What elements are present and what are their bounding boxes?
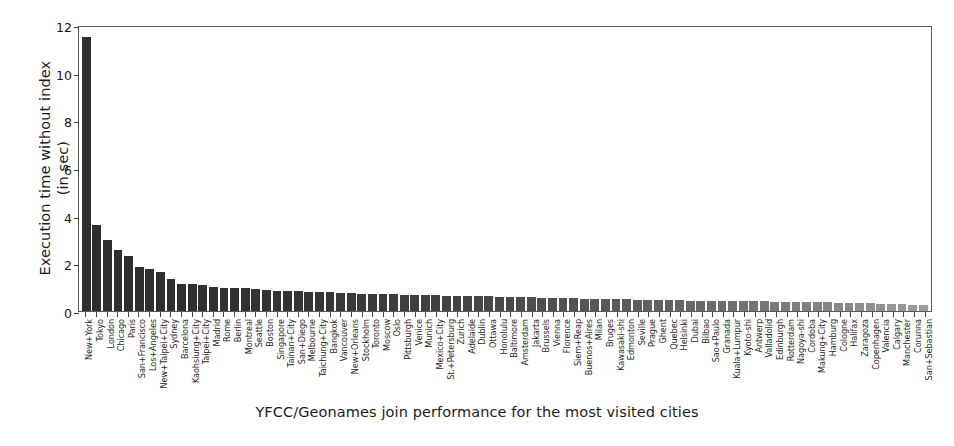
x-axis-tick-mark: [824, 312, 835, 318]
bar: [686, 301, 695, 311]
bar: [431, 295, 440, 311]
bar: [696, 301, 705, 311]
bar: [453, 296, 462, 311]
x-axis-tick-label: Antwerp: [749, 319, 760, 399]
x-axis-tick-label: Bruges: [601, 319, 612, 399]
bar: [516, 297, 525, 311]
x-axis-tick-label: Barcelona: [176, 319, 187, 399]
bar: [781, 302, 790, 311]
x-axis-tick-label: Valladolid: [760, 319, 771, 399]
x-axis-tick-mark: [101, 312, 112, 318]
x-axis-tick-mark: [569, 312, 580, 318]
x-axis-tick-mark: [409, 312, 420, 318]
x-axis-tick-label: Brussels: [537, 319, 548, 399]
x-axis-tick-label: Bangkok: [324, 319, 335, 399]
x-axis-tick-mark: [218, 312, 229, 318]
y-axis-tick-mark: [74, 75, 79, 76]
bar: [347, 293, 356, 311]
x-axis-tick-mark: [813, 312, 824, 318]
bar: [919, 305, 928, 311]
x-axis-tick-label: Halifax: [845, 319, 856, 399]
bar: [823, 302, 832, 311]
x-axis-tick-label: Dublin: [473, 319, 484, 399]
bar: [654, 300, 663, 311]
x-axis-tick-mark: [558, 312, 569, 318]
x-axis-tick-mark: [888, 312, 899, 318]
x-axis-tick-label: Quebec: [664, 319, 675, 399]
x-axis-tick-mark: [452, 312, 463, 318]
y-axis-tick-mark: [74, 218, 79, 219]
x-axis-tick-mark: [866, 312, 877, 318]
bar: [495, 297, 504, 311]
bar: [601, 299, 610, 311]
bar: [580, 299, 589, 311]
bar: [866, 303, 875, 311]
bar: [294, 291, 303, 311]
x-axis-tick-label: Taipei+City: [197, 319, 208, 399]
bar: [622, 299, 631, 311]
bar: [410, 295, 419, 311]
bar: [559, 298, 568, 311]
x-axis-tick-label: New+York: [80, 319, 91, 399]
bar: [421, 295, 430, 311]
bar: [220, 288, 229, 311]
x-axis-tick-mark: [919, 312, 930, 318]
bar: [675, 300, 684, 311]
x-axis-tick-label: San+Diego: [293, 319, 304, 399]
x-axis-tick-mark: [186, 312, 197, 318]
x-axis-tick-label: Manchester: [898, 319, 909, 399]
bar: [633, 300, 642, 311]
x-axis-tick-mark: [282, 312, 293, 318]
x-axis-tick-label: Siem+Reap: [569, 319, 580, 399]
bar: [898, 304, 907, 311]
bar: [230, 288, 239, 311]
x-axis-tick-label: Kuala+Lumpur: [728, 319, 739, 399]
x-axis-tick-mark: [579, 312, 590, 318]
bar: [92, 225, 101, 311]
x-axis-tick-mark: [526, 312, 537, 318]
bar: [802, 302, 811, 311]
x-axis-tick-label: Calgary: [888, 319, 899, 399]
x-axis-tick-mark: [239, 312, 250, 318]
x-axis-tick-label: Edmonton: [622, 319, 633, 399]
bar: [336, 293, 345, 311]
x-axis-tick-label: Tainan+City: [282, 319, 293, 399]
x-axis-tick-mark: [473, 312, 484, 318]
bar: [463, 296, 472, 311]
bar: [156, 272, 165, 311]
x-axis-tick-mark: [611, 312, 622, 318]
bar: [124, 256, 133, 311]
x-axis-tick-label: Cordoba: [803, 319, 814, 399]
bar: [82, 37, 91, 311]
bar: [188, 284, 197, 311]
x-axis-tick-label: Valencia: [877, 319, 888, 399]
x-axis-tick-mark: [367, 312, 378, 318]
x-axis-tick-label: Dubai: [686, 319, 697, 399]
x-axis-tick-label: Nagoya-shi: [792, 319, 803, 399]
x-axis-tick-mark: [675, 312, 686, 318]
bar: [103, 240, 112, 312]
x-axis-tick-label: Rotterdam: [781, 319, 792, 399]
x-axis-tick-label: Moscow: [378, 319, 389, 399]
x-axis-tick-mark: [622, 312, 633, 318]
x-axis-tick-label: Rome: [218, 319, 229, 399]
x-axis-tick-mark: [834, 312, 845, 318]
x-axis-tick-label: Edinburgh: [771, 319, 782, 399]
bar: [283, 291, 292, 311]
x-axis-tick-label: Venice: [409, 319, 420, 399]
x-axis-tick-label: Zaragoza: [856, 319, 867, 399]
x-axis-tick-mark: [271, 312, 282, 318]
x-axis-tick-label: Milan: [590, 319, 601, 399]
x-axis-tick-label: Bilbao: [696, 319, 707, 399]
bar: [368, 294, 377, 311]
x-axis-tick-mark: [197, 312, 208, 318]
x-axis-tick-mark: [792, 312, 803, 318]
x-axis-tick-mark: [856, 312, 867, 318]
bar-series: [79, 27, 931, 311]
x-axis-tick-mark: [877, 312, 888, 318]
bar: [770, 302, 779, 311]
bar: [177, 284, 186, 311]
x-axis-tick-label: Cologne: [834, 319, 845, 399]
x-axis-tick-labels: New+YorkTokyoLondonChicagoParisSan+Franc…: [78, 319, 932, 399]
x-axis-tick-label: Hamburg: [824, 319, 835, 399]
